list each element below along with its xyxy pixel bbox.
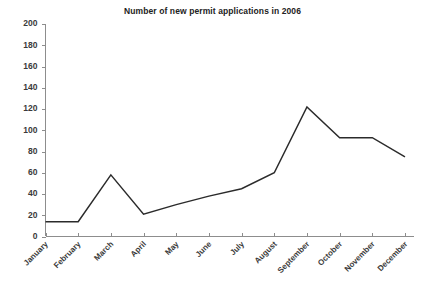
x-axis-tick-label: August — [253, 239, 279, 265]
y-axis-tick-label: 180 — [23, 40, 37, 50]
y-axis-tick-label: 0 — [33, 231, 38, 241]
y-axis-tick-label: 200 — [23, 18, 37, 28]
x-axis-tick-label: November — [343, 240, 377, 274]
y-axis-tick-label: 120 — [23, 103, 37, 113]
chart-plot-area: 020406080100120140160180200 JanuaryFebru… — [0, 0, 425, 285]
y-axis-tick-label: 160 — [23, 61, 37, 71]
x-axis-tick-label: June — [194, 239, 214, 259]
y-axis-tick-label: 140 — [23, 82, 37, 92]
x-axis: JanuaryFebruaryMarchAprilMayJuneJulyAugu… — [22, 233, 410, 276]
y-axis-tick-label: 80 — [28, 146, 38, 156]
y-axis-tick-label: 20 — [28, 210, 38, 220]
x-axis-tick-label: July — [228, 239, 246, 257]
y-axis-tick-label: 100 — [23, 125, 37, 135]
y-axis: 020406080100120140160180200 — [23, 18, 45, 241]
x-axis-tick-label: October — [316, 240, 344, 268]
x-axis-tick-label: March — [92, 239, 115, 262]
x-axis-tick-label: September — [276, 240, 312, 276]
x-axis-tick-label: May — [163, 239, 181, 257]
x-axis-tick-label: April — [129, 240, 148, 259]
x-axis-tick-label: December — [376, 240, 410, 274]
y-axis-tick-label: 60 — [28, 167, 38, 177]
y-axis-tick-label: 40 — [28, 188, 38, 198]
line-chart: Number of new permit applications in 200… — [0, 0, 425, 285]
x-axis-tick-label: January — [22, 239, 50, 267]
x-axis-tick-label: February — [52, 239, 83, 270]
data-series-line — [46, 107, 406, 222]
